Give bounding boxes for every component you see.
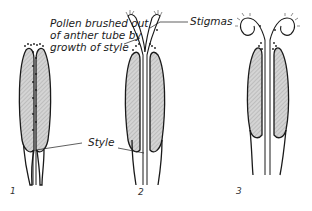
pollen-annotation-line1: Pollen brushed out [50,18,148,29]
pollen-annotation-line3: growth of style [50,42,129,53]
panel-number-1: 1 [10,186,16,196]
pollen-annotation-line2: of anther tube by [50,30,142,41]
panel-number-3: 3 [236,186,242,196]
stigmas-annotation: Stigmas [190,16,233,27]
panel-3-stigmas-curled [235,13,300,175]
style-annotation: Style [88,137,114,148]
flower-style-diagram [0,0,312,211]
panel-1-anther-tube [19,43,82,185]
panel-number-2: 2 [138,187,144,197]
